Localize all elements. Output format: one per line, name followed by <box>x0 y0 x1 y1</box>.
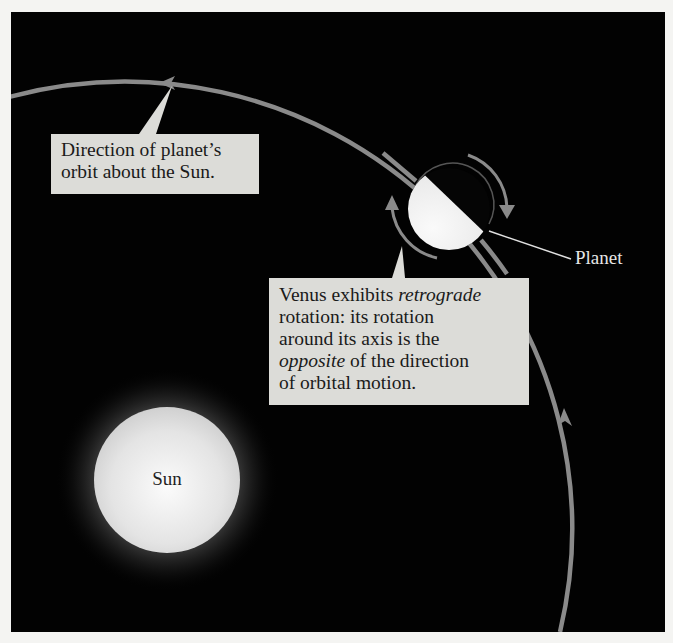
retro-callout-line-2: rotation: its rotation <box>279 306 521 328</box>
retrograde-callout: Venus exhibits retrograde rotation: its … <box>269 278 529 405</box>
orbit-callout-line-1: Direction of planet’s <box>61 139 251 161</box>
retro-callout-line-3: around its axis is the <box>279 328 521 350</box>
retro-callout-line-1: Venus exhibits retrograde <box>279 284 521 306</box>
orbit-callout-line-2: orbit about the Sun. <box>61 161 251 183</box>
orbit-direction-callout: Direction of planet’s orbit about the Su… <box>51 134 259 194</box>
orbit-callout-pointer <box>139 86 172 134</box>
retro-callout-pointer <box>392 246 405 278</box>
retro-emphasis-opposite: opposite <box>279 350 345 371</box>
sun-label: Sun <box>134 468 200 490</box>
retro-text: Venus exhibits <box>279 284 398 305</box>
retro-text: of the direction <box>345 350 469 371</box>
retro-callout-line-5: of orbital motion. <box>279 372 521 394</box>
diagram-panel: Direction of planet’s orbit about the Su… <box>11 12 665 632</box>
retro-emphasis-retrograde: retrograde <box>398 284 481 305</box>
planet-leader-line <box>489 231 571 259</box>
planet-label: Planet <box>575 247 623 269</box>
retro-callout-line-4: opposite of the direction <box>279 350 521 372</box>
